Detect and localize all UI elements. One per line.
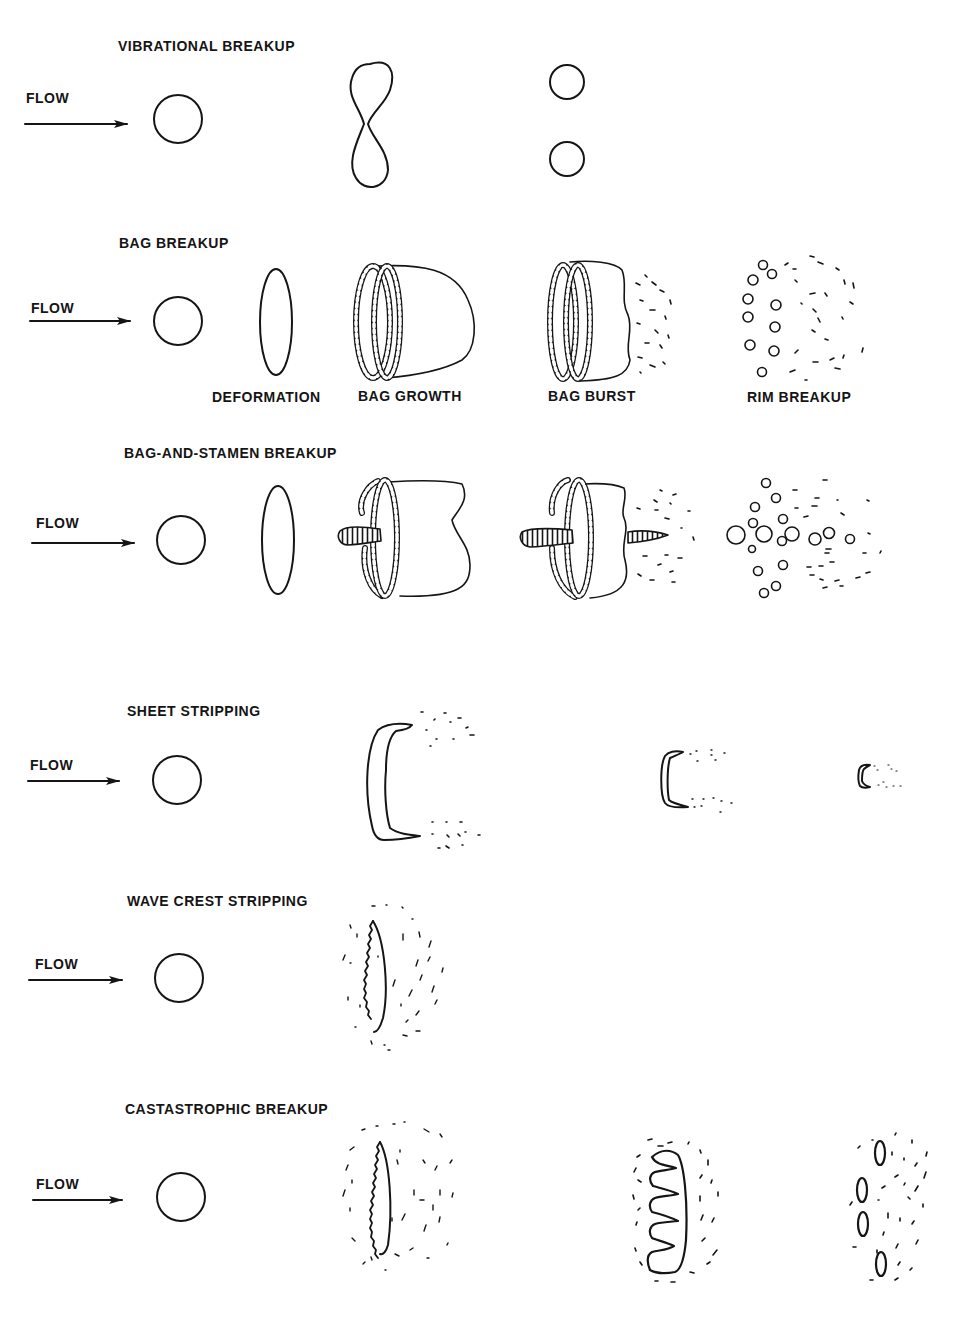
- flattened-disk: [262, 486, 294, 594]
- stripping-sheet-small: [858, 765, 870, 788]
- sheet-mist-small: [874, 765, 901, 787]
- rim-breakup-droplets: [743, 261, 781, 377]
- bag-burst-shape: [550, 261, 630, 381]
- daughter-droplet-top: [550, 65, 584, 99]
- catastrophic-mist-1: [343, 1122, 453, 1270]
- stripping-sheet-medium: [661, 751, 688, 807]
- droplet-sphere: [157, 1173, 205, 1221]
- sheet-mist-large: [421, 712, 480, 848]
- breakup-diagram-artwork: [0, 0, 971, 1318]
- droplet-sphere: [155, 954, 203, 1002]
- droplet-sphere: [154, 95, 202, 143]
- catastrophic-wavy-disk: [370, 1142, 390, 1258]
- wavy-disk: [364, 921, 386, 1032]
- stripping-sheet-large: [367, 724, 420, 840]
- bag-burst-fragments: [636, 275, 671, 373]
- droplet-sphere: [154, 297, 202, 345]
- dumbbell-droplet: [351, 63, 393, 187]
- stamen-fragment-dashes: [793, 480, 881, 588]
- bag-with-stamen-shape: [338, 480, 470, 596]
- wave-crest-mist: [343, 905, 443, 1050]
- daughter-droplet-bottom: [550, 142, 584, 176]
- droplet-sphere: [153, 756, 201, 804]
- ligament-fragments: [857, 1141, 886, 1276]
- fingered-disk: [648, 1151, 687, 1273]
- catastrophic-mist-2: [633, 1139, 718, 1282]
- bursting-bag-with-stamen-shape: [520, 480, 668, 598]
- stamen-droplet-cluster: [727, 479, 855, 598]
- droplet-sphere: [157, 516, 205, 564]
- catastrophic-mist-3: [850, 1133, 927, 1280]
- rim-breakup-fragments: [785, 256, 863, 380]
- bag-growth-shape: [356, 266, 474, 378]
- flattened-disk: [260, 269, 292, 375]
- sheet-mist-medium: [690, 750, 732, 812]
